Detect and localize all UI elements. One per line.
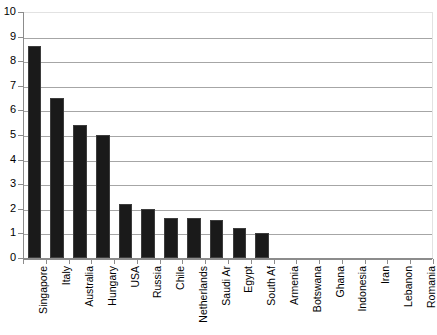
category-label: Lebanon [403, 266, 414, 307]
x-tick-13 [319, 259, 320, 264]
bar [164, 218, 178, 258]
category-label: Singapore [38, 266, 49, 314]
x-tick-1 [46, 259, 47, 264]
y-tick-label-6: 6 [0, 104, 16, 115]
x-tick-5 [137, 259, 138, 264]
x-tick-0 [23, 259, 24, 264]
category-label: Netherlands [198, 266, 209, 323]
category-label: Botswana [312, 266, 323, 312]
plot-area [23, 12, 433, 258]
bar [50, 98, 64, 258]
y-tick-label-7: 7 [0, 80, 16, 91]
x-tick-4 [114, 259, 115, 264]
y-tick-label-2: 2 [0, 203, 16, 214]
y-tick-label-3: 3 [0, 178, 16, 189]
category-label: Iran [380, 266, 391, 284]
y-tick-label-4: 4 [0, 154, 16, 165]
x-tick-6 [160, 259, 161, 264]
y-tick-label-1: 1 [0, 227, 16, 238]
category-label: Romania [426, 266, 437, 308]
y-tick-6 [18, 110, 23, 111]
category-label: South Af [266, 266, 277, 306]
y-tick-3 [18, 184, 23, 185]
category-label: Ghana [335, 266, 346, 298]
gridline-8 [23, 62, 432, 63]
category-label: Indonesia [357, 266, 368, 312]
x-tick-17 [410, 259, 411, 264]
bar [255, 233, 269, 258]
bar [233, 228, 247, 258]
gridline-7 [23, 87, 432, 88]
gridline-6 [23, 111, 432, 112]
x-tick-14 [342, 259, 343, 264]
category-label: Hungary [107, 266, 118, 306]
bar-chart: 012345678910 SingaporeItalyAustraliaHung… [0, 0, 437, 335]
x-tick-2 [69, 259, 70, 264]
y-axis-labels: 012345678910 [0, 0, 16, 335]
bar [119, 204, 133, 258]
y-tick-1 [18, 233, 23, 234]
y-tick-label-5: 5 [0, 129, 16, 140]
x-tick-15 [365, 259, 366, 264]
x-tick-12 [296, 259, 297, 264]
category-label: Saudi Ar [221, 266, 232, 306]
y-axis-line [23, 12, 24, 259]
category-label: Italy [61, 266, 72, 285]
category-label: Russia [152, 266, 163, 298]
category-label: Egypt [243, 266, 254, 293]
y-tick-label-0: 0 [0, 252, 16, 263]
gridline-9 [23, 38, 432, 39]
y-tick-2 [18, 209, 23, 210]
y-tick-label-8: 8 [0, 55, 16, 66]
bar [96, 135, 110, 258]
y-tick-label-10: 10 [0, 6, 16, 17]
y-tick-10 [18, 12, 23, 13]
x-tick-18 [433, 259, 434, 264]
x-tick-7 [182, 259, 183, 264]
x-tick-9 [228, 259, 229, 264]
y-tick-5 [18, 135, 23, 136]
x-tick-10 [251, 259, 252, 264]
y-tick-9 [18, 37, 23, 38]
bar [210, 220, 224, 258]
category-label: Australia [84, 266, 95, 307]
category-label: USA [130, 266, 141, 288]
bar [28, 46, 42, 258]
bar [73, 125, 87, 258]
y-tick-4 [18, 160, 23, 161]
y-tick-7 [18, 86, 23, 87]
x-tick-16 [387, 259, 388, 264]
category-label: Chile [175, 266, 186, 290]
x-tick-8 [205, 259, 206, 264]
bar [141, 209, 155, 258]
x-tick-3 [91, 259, 92, 264]
y-tick-label-9: 9 [0, 31, 16, 42]
y-tick-8 [18, 61, 23, 62]
category-label: Armenia [289, 266, 300, 305]
bar [187, 218, 201, 258]
x-tick-11 [274, 259, 275, 264]
